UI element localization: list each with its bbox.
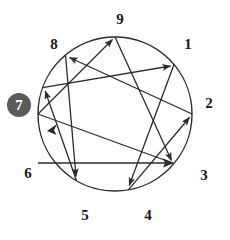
edge-9-to-3 (115, 37, 172, 161)
edge-5-to-7 (45, 91, 76, 181)
point-label-3: 3 (194, 168, 214, 183)
arrowhead-decorations (47, 124, 174, 168)
point-label-5: 5 (75, 208, 95, 223)
enneagram-figure: 9 8 1 7 2 6 3 5 4 (0, 0, 230, 240)
inner-triangle-group (38, 37, 174, 164)
point-label-6: 6 (18, 166, 38, 181)
point-label-2: 2 (199, 96, 219, 111)
point-label-8: 8 (44, 37, 64, 52)
point-badge-7[interactable]: 7 (7, 93, 31, 117)
enneagram-outer-circle (38, 37, 192, 191)
hexad-group (43, 55, 192, 190)
edge-7-to-1 (43, 66, 171, 88)
arrowhead-at-7-lower (47, 124, 57, 135)
point-label-9: 9 (110, 12, 130, 27)
point-label-1: 1 (178, 37, 198, 52)
point-label-4: 4 (138, 208, 158, 223)
edge-8-to-5 (66, 55, 77, 177)
enneagram-svg (0, 0, 230, 240)
